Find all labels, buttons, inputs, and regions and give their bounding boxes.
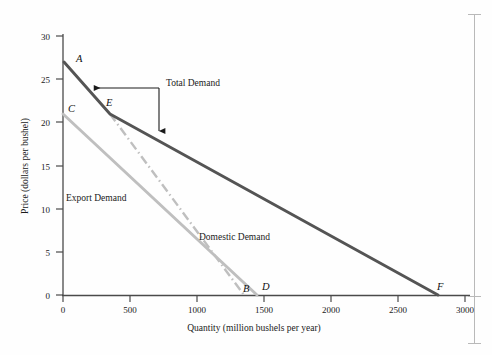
x-tick-label-500: 500 [123, 305, 137, 315]
x-tick-label-2000: 2000 [322, 305, 341, 315]
point-label-B: B [243, 283, 250, 294]
y-tick-label-15: 15 [41, 162, 51, 172]
series-domestic-demand [110, 114, 244, 295]
demand-chart-figure: 30 25 20 15 10 5 0 0 500 1000 1500 [0, 0, 492, 355]
page-margin-tick-bottom [468, 343, 481, 344]
point-label-C: C [68, 103, 76, 114]
export-demand-label: Export Demand [66, 193, 127, 203]
total-demand-line [64, 62, 438, 295]
x-axis-title: Quantity (million bushels per year) [187, 323, 321, 334]
x-tick-label-1000: 1000 [188, 305, 207, 315]
y-tick-label-25: 25 [41, 75, 51, 85]
chart-axes [62, 34, 470, 296]
point-label-E: E [105, 97, 113, 108]
y-axis-ticks: 30 25 20 15 10 5 0 [41, 32, 63, 301]
chart-canvas: 30 25 20 15 10 5 0 0 500 1000 1500 [0, 0, 492, 355]
total-demand-callout: Total Demand [94, 78, 220, 131]
point-labels: A C E B D F [68, 53, 444, 294]
page-margin-tick-middle [468, 296, 481, 297]
y-tick-label-10: 10 [41, 205, 51, 215]
point-label-D: D [261, 281, 270, 292]
y-tick-label-20: 20 [41, 118, 51, 128]
point-label-A: A [75, 53, 83, 64]
x-axis-ticks: 0 500 1000 1500 2000 2500 3000 [61, 295, 475, 315]
page-margin-rule-right [474, 14, 475, 344]
y-axis-title: Price (dollars per bushel) [20, 118, 31, 214]
x-tick-label-2500: 2500 [389, 305, 408, 315]
x-tick-label-3000: 3000 [456, 305, 475, 315]
page-margin-tick-top [468, 14, 481, 15]
figure-page: 30 25 20 15 10 5 0 0 500 1000 1500 [0, 0, 492, 355]
y-tick-label-5: 5 [46, 248, 51, 258]
x-tick-label-0: 0 [61, 305, 66, 315]
domestic-demand-label: Domestic Demand [199, 232, 270, 242]
total-demand-label: Total Demand [166, 78, 220, 88]
domestic-demand-line [110, 114, 244, 295]
series-total-demand [64, 62, 438, 295]
point-label-F: F [436, 281, 444, 292]
x-tick-label-1500: 1500 [255, 305, 274, 315]
y-tick-label-0: 0 [46, 291, 51, 301]
y-tick-label-30: 30 [41, 32, 51, 42]
